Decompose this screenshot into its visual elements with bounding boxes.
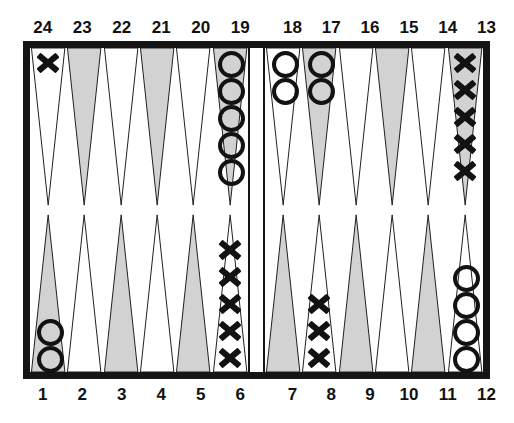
point-triangle-14 (410, 48, 446, 210)
point-number-22: 22 (102, 16, 142, 40)
point-15[interactable] (374, 48, 410, 210)
point-7[interactable] (265, 210, 301, 372)
point-12[interactable] (447, 210, 483, 372)
point-number-8: 8 (312, 383, 351, 407)
point-21[interactable] (139, 48, 175, 210)
board-frame (23, 41, 490, 379)
point-number-4: 4 (142, 383, 182, 407)
point-10[interactable] (374, 210, 410, 372)
point-number-14: 14 (428, 16, 467, 40)
point-24[interactable] (30, 48, 66, 210)
point-number-24: 24 (23, 16, 63, 40)
quadrant-top-left (30, 48, 248, 210)
point-17[interactable] (301, 48, 337, 210)
point-5[interactable] (175, 210, 211, 372)
point-triangle-6 (212, 210, 248, 372)
point-triangle-2 (66, 210, 102, 372)
point-number-20: 20 (181, 16, 221, 40)
point-triangle-7 (265, 210, 301, 372)
point-triangle-8 (301, 210, 337, 372)
point-triangle-15 (374, 48, 410, 210)
point-number-7: 7 (273, 383, 312, 407)
point-triangle-24 (30, 48, 66, 210)
point-18[interactable] (265, 48, 301, 210)
point-3[interactable] (103, 210, 139, 372)
point-number-5: 5 (181, 383, 221, 407)
point-triangle-5 (175, 210, 211, 372)
top-point-number-row: 242322212019 181716151413 (0, 16, 514, 40)
point-triangle-9 (338, 210, 374, 372)
point-triangle-11 (410, 210, 446, 372)
point-triangle-12 (447, 210, 483, 372)
point-number-17: 17 (312, 16, 351, 40)
point-number-6: 6 (221, 383, 261, 407)
point-triangle-4 (139, 210, 175, 372)
point-number-21: 21 (142, 16, 182, 40)
point-triangle-16 (338, 48, 374, 210)
board-surface (30, 48, 483, 372)
point-number-3: 3 (102, 383, 142, 407)
point-11[interactable] (410, 210, 446, 372)
point-number-16: 16 (351, 16, 390, 40)
point-triangle-19 (212, 48, 248, 210)
point-triangle-3 (103, 210, 139, 372)
point-9[interactable] (338, 210, 374, 372)
point-number-10: 10 (389, 383, 428, 407)
point-triangle-13 (447, 48, 483, 210)
point-16[interactable] (338, 48, 374, 210)
point-triangle-22 (103, 48, 139, 210)
backgammon-diagram: 242322212019 181716151413 123456 7891011… (0, 0, 514, 423)
point-22[interactable] (103, 48, 139, 210)
point-number-11: 11 (428, 383, 467, 407)
point-number-19: 19 (221, 16, 261, 40)
point-triangle-1 (30, 210, 66, 372)
point-number-23: 23 (63, 16, 103, 40)
board-bar[interactable] (248, 48, 265, 372)
quadrant-top-right (265, 48, 483, 210)
point-1[interactable] (30, 210, 66, 372)
point-triangle-21 (139, 48, 175, 210)
point-number-2: 2 (63, 383, 103, 407)
point-4[interactable] (139, 210, 175, 372)
point-20[interactable] (175, 48, 211, 210)
point-triangle-20 (175, 48, 211, 210)
top-right-label-group: 181716151413 (273, 16, 506, 40)
point-14[interactable] (410, 48, 446, 210)
point-triangle-18 (265, 48, 301, 210)
point-number-9: 9 (351, 383, 390, 407)
point-8[interactable] (301, 210, 337, 372)
point-number-15: 15 (389, 16, 428, 40)
point-2[interactable] (66, 210, 102, 372)
point-number-18: 18 (273, 16, 312, 40)
point-number-13: 13 (467, 16, 506, 40)
point-13[interactable] (447, 48, 483, 210)
bottom-point-number-row: 123456 789101112 (0, 383, 514, 407)
quadrant-bottom-left (30, 210, 248, 372)
bottom-right-label-group: 789101112 (273, 383, 506, 407)
point-6[interactable] (212, 210, 248, 372)
point-triangle-17 (301, 48, 337, 210)
bottom-left-label-group: 123456 (23, 383, 260, 407)
point-triangle-10 (374, 210, 410, 372)
point-23[interactable] (66, 48, 102, 210)
top-left-label-group: 242322212019 (23, 16, 260, 40)
point-triangle-23 (66, 48, 102, 210)
point-number-12: 12 (467, 383, 506, 407)
point-number-1: 1 (23, 383, 63, 407)
quadrant-bottom-right (265, 210, 483, 372)
point-19[interactable] (212, 48, 248, 210)
